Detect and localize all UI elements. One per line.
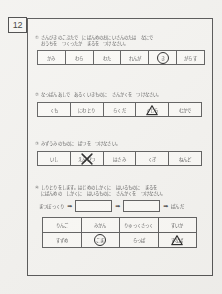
exercise-1-prompt-line-1: さんびきのこぶたで にばんめのおにいさんのたは なにで: [41, 35, 153, 40]
word-label: くじら: [146, 107, 159, 113]
grid-row: りんご みかん りゅっくさっく すいか: [43, 218, 196, 233]
chain-end-word: ぱんだ: [171, 203, 184, 209]
word-label: すなば: [171, 237, 183, 243]
option-cell[interactable]: みかん: [82, 218, 121, 232]
option-cell[interactable]: すいか: [159, 218, 197, 232]
shiritori-chain: まつぼっくり ➡ ➡ ➡ ぱんだ: [39, 197, 214, 214]
word-cell[interactable]: いし: [38, 152, 71, 165]
word-label: すずめ: [56, 237, 68, 243]
arrow-right-icon: ➡: [163, 203, 168, 209]
exercise-section-2: ②なっぱんあしで あるくいきものに さんかくを つけなさい。 くも にわとり ら…: [28, 92, 214, 117]
word-cell[interactable]: らくだ: [104, 103, 137, 116]
worksheet-frame: ①さんびきのこぶたで にばんめのおにいさんのたは なにで おうちを つくったか …: [27, 18, 213, 276]
word-label: いし: [50, 156, 58, 162]
word-label: えんぴつ: [78, 156, 95, 162]
grid-row: すずめ こま らっぱ すなば: [43, 233, 196, 247]
word-label: らくだ: [113, 107, 126, 113]
option-cell-selected[interactable]: すなば: [159, 233, 197, 247]
exercise-1-prompt: ①さんびきのこぶたで にばんめのおにいさんのたは なにで おうちを つくったか …: [28, 35, 214, 47]
exercise-3-word-table: いし えんぴつ はさみ くぎ ねんど: [37, 151, 202, 166]
word-cell[interactable]: がらす: [177, 51, 204, 64]
exercise-2-prompt-line-1: なっぱんあしで あるくいきものに さんかくを つけなさい。: [41, 92, 161, 97]
word-cell[interactable]: かみ: [38, 51, 66, 64]
exercise-section-1: ①さんびきのこぶたで にばんめのおにいさんのたは なにで おうちを つくったか …: [28, 35, 214, 65]
chain-blank-2[interactable]: [123, 200, 160, 212]
word-cell[interactable]: むかで: [169, 103, 201, 116]
exercise-1-prompt-line-2: おうちを つくったか まるを つけなさい。: [35, 41, 214, 47]
arrow-right-icon: ➡: [115, 203, 120, 209]
word-label: かみ: [47, 55, 55, 61]
exercise-3-prompt-line-1: みずうみのものに ばつを つけなさい。: [41, 141, 120, 146]
exercise-section-3: ③みずうみのものに ばつを つけなさい。 いし えんぴつ はさみ くぎ: [28, 141, 214, 166]
word-label: わた: [103, 55, 111, 61]
word-cell-selected[interactable]: くじら: [136, 103, 169, 116]
word-label: わら: [75, 55, 83, 61]
page-number-badge: 12: [8, 17, 27, 33]
option-cell[interactable]: りんご: [43, 218, 82, 232]
option-cell[interactable]: すずめ: [43, 233, 82, 247]
word-cell[interactable]: ねんど: [169, 152, 201, 165]
word-label: がらす: [184, 55, 197, 61]
word-cell-selected[interactable]: き: [149, 51, 177, 64]
word-label: みかん: [94, 222, 106, 228]
word-cell[interactable]: にわとり: [71, 103, 104, 116]
word-label: はさみ: [113, 156, 126, 162]
word-label: くぎ: [148, 156, 156, 162]
word-cell[interactable]: くも: [38, 103, 71, 116]
word-cell-selected[interactable]: えんぴつ: [71, 152, 104, 165]
word-label: らっぱ: [133, 237, 145, 243]
chain-blank-1[interactable]: [75, 200, 112, 212]
word-label: れんが: [129, 55, 142, 61]
exercise-section-4: ④しりとりをします。はじめのしかくに はいるものに まるを にばんめの しかくに…: [28, 185, 214, 248]
word-label: にわとり: [78, 107, 95, 113]
exercise-2-word-table: くも にわとり らくだ くじら むかで: [37, 102, 202, 117]
word-label: すいか: [171, 222, 183, 228]
option-cell-selected[interactable]: こま: [82, 233, 121, 247]
word-cell[interactable]: くぎ: [136, 152, 169, 165]
option-cell[interactable]: りゅっくさっく: [120, 218, 159, 232]
arrow-right-icon: ➡: [67, 203, 72, 209]
word-cell[interactable]: れんが: [121, 51, 149, 64]
worksheet-page: 12 ①さんびきのこぶたで にばんめのおにいさんのたは なにで おうちを つくっ…: [0, 0, 222, 294]
exercise-4-prompt: ④しりとりをします。はじめのしかくに はいるものに まるを にばんめの しかくに…: [28, 185, 214, 197]
word-cell[interactable]: わら: [66, 51, 94, 64]
exercise-1-word-table: かみ わら わた れんが き がらす: [37, 50, 205, 65]
word-label: くも: [50, 107, 58, 113]
word-label: りんご: [56, 222, 68, 228]
word-label: き: [161, 55, 165, 61]
answer-option-grid: りんご みかん りゅっくさっく すいか すずめ: [42, 217, 197, 248]
exercise-4-prompt-line-2: にばんめの しかくに はいるものに さんかくを つけなさい。: [35, 191, 214, 197]
word-label: りゅっくさっく: [124, 222, 153, 228]
word-cell[interactable]: はさみ: [104, 152, 137, 165]
option-cell[interactable]: らっぱ: [120, 233, 159, 247]
word-label: こま: [96, 237, 104, 243]
word-label: ねんど: [179, 156, 192, 162]
exercise-4-prompt-line-1: しりとりをします。はじめのしかくに はいるものに まるを: [41, 185, 157, 190]
word-cell[interactable]: わた: [94, 51, 122, 64]
word-label: むかで: [179, 107, 192, 113]
exercise-2-prompt: ②なっぱんあしで あるくいきものに さんかくを つけなさい。: [28, 92, 214, 98]
chain-start-word: まつぼっくり: [39, 203, 64, 209]
exercise-3-prompt: ③みずうみのものに ばつを つけなさい。: [28, 141, 214, 147]
